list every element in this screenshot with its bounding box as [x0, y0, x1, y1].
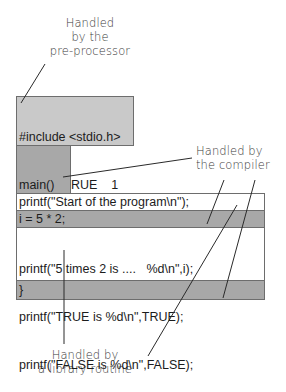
pointer-line-library-start — [148, 205, 237, 356]
pointer-line-compiler-main — [63, 158, 192, 177]
pointer-line-compiler-close — [223, 180, 255, 298]
pointer-line-preprocessor — [21, 64, 45, 103]
pointer-line-compiler-assign — [207, 180, 224, 224]
pointer-lines — [0, 0, 286, 392]
